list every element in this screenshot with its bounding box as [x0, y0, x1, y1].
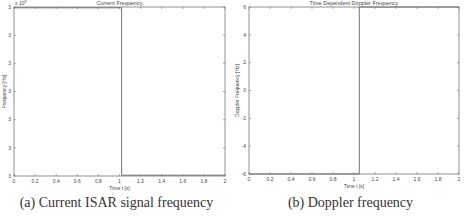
y-multiplier-label: x 109: [15, 0, 26, 6]
x-tick-label: 2: [224, 178, 227, 184]
y-tick-label: 6: [243, 4, 246, 10]
x-tick-label: 0.2: [267, 176, 274, 182]
chart-title: Current Frequency: [97, 0, 143, 6]
x-tick-label: 2: [458, 176, 461, 182]
x-tick-label: 1.2: [137, 178, 144, 184]
y-tick-label: 3: [8, 32, 11, 38]
y-tick-label: 3: [8, 4, 11, 10]
x-tick-label: 0.4: [288, 176, 295, 182]
y-tick-label: 3: [8, 116, 11, 122]
y-tick-label: 0: [243, 87, 246, 93]
x-tick-label: 1.8: [435, 176, 442, 182]
x-tick-label: 0: [248, 176, 251, 182]
y-axis-label: Frequency [Hz]: [1, 74, 7, 109]
y-axis-label: Doppler Frequency [Hz]: [234, 63, 240, 116]
plot-frame: [249, 7, 459, 174]
y-tick-label: 3: [8, 88, 11, 94]
y-tick-label: -6: [242, 171, 247, 177]
x-tick-label: 1.4: [393, 176, 400, 182]
x-tick-label: 1.4: [158, 178, 165, 184]
x-tick-label: 1: [353, 176, 356, 182]
x-axis-label: Time t [s]: [344, 183, 365, 189]
x-tick-label: 1: [118, 178, 121, 184]
right-caption: (b) Doppler frequency: [234, 195, 467, 211]
x-tick-label: 1.6: [179, 178, 186, 184]
y-tick-label: 2: [243, 59, 246, 65]
current-frequency-plot: Current Frequency00.20.40.60.811.21.41.6…: [0, 0, 233, 195]
right-chart-panel: Time Dependent Doppler Frequency00.20.40…: [234, 0, 467, 217]
x-tick-label: 1.2: [372, 176, 379, 182]
y-tick-label: 3: [8, 173, 11, 179]
x-tick-label: 0.6: [74, 178, 81, 184]
left-caption: (a) Current ISAR signal frequency: [0, 195, 233, 211]
y-tick-label: 4: [243, 32, 246, 38]
x-tick-label: 0.2: [32, 178, 39, 184]
x-tick-label: 0.8: [330, 176, 337, 182]
plot-frame: [14, 7, 225, 176]
chart-title: Time Dependent Doppler Frequency: [310, 0, 399, 6]
x-tick-label: 0.4: [53, 178, 60, 184]
x-tick-label: 1.6: [414, 176, 421, 182]
data-series-line: [249, 7, 459, 174]
left-chart-panel: Current Frequency00.20.40.60.811.21.41.6…: [0, 0, 233, 217]
y-tick-label: -4: [242, 143, 247, 149]
y-tick-label: -2: [242, 115, 247, 121]
data-series-line: [14, 8, 225, 175]
x-tick-label: 1.8: [200, 178, 207, 184]
x-axis-label: Time t [s]: [109, 185, 130, 191]
x-tick-label: 0.6: [309, 176, 316, 182]
y-tick-label: 3: [8, 60, 11, 66]
y-tick-label: 3: [8, 145, 11, 151]
x-tick-label: 0: [13, 178, 16, 184]
x-tick-label: 0.8: [95, 178, 102, 184]
doppler-frequency-plot: Time Dependent Doppler Frequency00.20.40…: [234, 0, 467, 195]
